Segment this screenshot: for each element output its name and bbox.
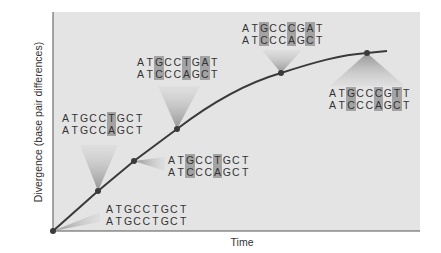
sequence-row-1: ATGCCTGAT [136, 56, 219, 68]
base: G [116, 112, 125, 124]
callout-fan-0 [53, 212, 100, 231]
base: A [105, 203, 114, 215]
x-axis-label: Time [231, 236, 254, 248]
base-difference: A [200, 56, 209, 68]
base: C [204, 154, 213, 166]
base-difference: C [374, 87, 383, 99]
sequence-row-2: ATCCCAGCT [167, 166, 250, 178]
callout-fan-5 [330, 53, 405, 86]
base: C [98, 112, 107, 124]
base-difference: C [200, 68, 209, 80]
data-point-1 [95, 188, 101, 194]
base: C [164, 68, 173, 80]
base: T [135, 112, 144, 124]
base-difference: C [346, 99, 355, 111]
base: C [125, 124, 134, 136]
base: G [116, 124, 125, 136]
base: C [89, 124, 98, 136]
base: T [250, 22, 259, 34]
base: T [70, 112, 79, 124]
base: T [151, 215, 160, 227]
base: C [125, 112, 134, 124]
base: T [315, 22, 324, 34]
base: A [167, 166, 176, 178]
base: G [191, 56, 200, 68]
base-difference: A [182, 68, 191, 80]
base-difference: G [259, 22, 268, 34]
base: G [160, 203, 169, 215]
base: G [160, 215, 169, 227]
base: A [241, 34, 250, 46]
sequence-callout: ATGCCCGTTATCCCAGCT [328, 87, 411, 111]
sequence-callout: ATGCCTGATATCCCAGCT [136, 56, 219, 80]
base: C [89, 112, 98, 124]
base: T [315, 34, 324, 46]
base-difference: G [185, 154, 194, 166]
base: C [133, 203, 142, 215]
base: T [337, 87, 346, 99]
base: G [296, 22, 305, 34]
data-point-3 [174, 126, 180, 132]
base-difference: C [287, 22, 296, 34]
base-difference: A [213, 166, 222, 178]
base: T [210, 56, 219, 68]
base: G [383, 87, 392, 99]
base: C [164, 56, 173, 68]
base-difference: T [107, 112, 116, 124]
base: G [123, 215, 132, 227]
base: T [114, 215, 123, 227]
base: G [191, 68, 200, 80]
base-difference: C [154, 68, 163, 80]
base-difference: T [213, 154, 222, 166]
base: T [402, 99, 411, 111]
sequence-row-1: ATGCCTGCT [61, 112, 144, 124]
base: C [173, 68, 182, 80]
base-difference: A [107, 124, 116, 136]
data-point-2 [131, 158, 137, 164]
sequence-row-1: ATGCCTGCT [105, 203, 188, 215]
callout-fan-2 [134, 157, 165, 171]
base: A [136, 68, 145, 80]
base: C [204, 166, 213, 178]
base: C [278, 34, 287, 46]
base: A [328, 87, 337, 99]
base: G [79, 124, 88, 136]
sequence-row-2: ATGCCAGCT [61, 124, 144, 136]
sequence-row-2: ATCCCAGCT [328, 99, 411, 111]
base: C [365, 87, 374, 99]
sequence-row-2: ATCCCAGCT [136, 68, 219, 80]
base: C [231, 166, 240, 178]
base: A [241, 22, 250, 34]
base: C [365, 99, 374, 111]
sequence-callout: ATGCCTGCTATGCCAGCT [61, 112, 144, 136]
base: C [169, 203, 178, 215]
base: G [123, 203, 132, 215]
base: C [173, 56, 182, 68]
base: T [250, 34, 259, 46]
divergence-curve [53, 51, 387, 231]
base: C [269, 22, 278, 34]
callout-fan-1 [80, 145, 118, 191]
base: C [169, 215, 178, 227]
base-difference: A [287, 34, 296, 46]
base: T [135, 124, 144, 136]
base: C [133, 215, 142, 227]
base: T [241, 154, 250, 166]
data-point-0 [50, 228, 56, 234]
base: C [142, 203, 151, 215]
base-difference: T [392, 87, 401, 99]
base-difference: A [305, 22, 314, 34]
base-difference: C [305, 34, 314, 46]
base-difference: G [154, 56, 163, 68]
base: T [114, 203, 123, 215]
base-difference: C [392, 99, 401, 111]
base: T [145, 56, 154, 68]
base: C [195, 166, 204, 178]
data-point-4 [278, 70, 284, 76]
base: G [79, 112, 88, 124]
data-point-5 [364, 50, 370, 56]
base: A [61, 124, 70, 136]
base: C [231, 154, 240, 166]
base: T [402, 87, 411, 99]
base: A [105, 215, 114, 227]
